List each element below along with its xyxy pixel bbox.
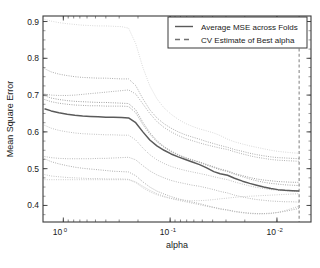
x-tick-label: 10 [53, 227, 63, 237]
y-tick-label: 0.4 [27, 200, 39, 210]
legend-entry-label: CV Estimate of Best alpha [201, 36, 295, 45]
y-tick-label: 0.9 [27, 17, 39, 27]
mse-vs-alpha-chart: 10010-110-20.40.50.60.70.80.9alphaMean S… [0, 0, 320, 268]
x-axis-label: alpha [166, 240, 188, 250]
y-tick-label: 0.8 [27, 53, 39, 63]
x-tick-exponent: -1 [171, 227, 177, 233]
y-tick-label: 0.7 [27, 90, 39, 100]
x-tick-label: 10 [160, 227, 170, 237]
x-tick-exponent: 0 [64, 227, 68, 233]
y-tick-label: 0.6 [27, 127, 39, 137]
y-tick-label: 0.5 [27, 164, 39, 174]
y-axis-label: Mean Square Error [5, 81, 15, 158]
legend-entry-label: Average MSE across Folds [201, 23, 298, 32]
x-tick-exponent: -2 [277, 227, 283, 233]
chart-figure: 10010-110-20.40.50.60.70.80.9alphaMean S… [0, 0, 320, 268]
x-tick-label: 10 [266, 227, 276, 237]
